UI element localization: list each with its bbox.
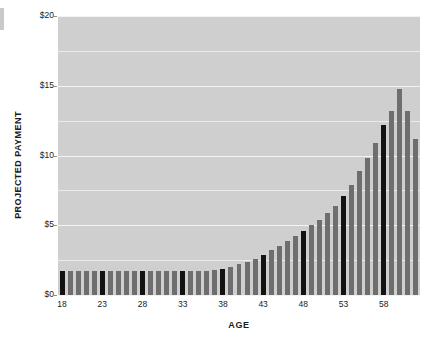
y-tick-label: $0 (14, 289, 54, 299)
page-edge-marker (0, 8, 4, 30)
x-tick-label: 38 (210, 299, 236, 309)
bar (148, 271, 153, 295)
bar (180, 271, 185, 295)
y-tick-label: $10 (14, 150, 54, 160)
plot-area (58, 16, 420, 295)
bar (405, 111, 410, 295)
x-tick-label: 28 (129, 299, 155, 309)
bar (100, 271, 105, 295)
y-tick-mark (53, 86, 57, 87)
bar (132, 271, 137, 295)
y-tick-label: $15 (14, 80, 54, 90)
chart-page: PROJECTED PAYMENT AGE $0$5$10$15$20 1823… (0, 0, 443, 344)
bar (397, 89, 402, 295)
bar (76, 271, 81, 295)
bar (389, 111, 394, 295)
y-tick-label: $20 (14, 10, 54, 20)
x-tick-label: 18 (49, 299, 75, 309)
bar (325, 213, 330, 295)
bar (293, 236, 298, 295)
x-axis-title: AGE (58, 320, 420, 330)
bar (204, 271, 209, 295)
y-tick-mark (53, 16, 57, 17)
bar (309, 225, 314, 295)
bar (188, 271, 193, 295)
bar (220, 269, 225, 296)
bar (333, 206, 338, 295)
gridline (58, 295, 420, 296)
bar (317, 220, 322, 295)
x-tick-label: 53 (331, 299, 357, 309)
bar (172, 271, 177, 295)
bar (84, 271, 89, 295)
bar (349, 185, 354, 295)
bar (357, 171, 362, 295)
bar (108, 271, 113, 295)
bar (285, 241, 290, 295)
x-tick-label: 23 (89, 299, 115, 309)
x-tick-label: 43 (250, 299, 276, 309)
bar (365, 158, 370, 295)
bar (156, 271, 161, 295)
bar (140, 271, 145, 295)
y-tick-mark (53, 225, 57, 226)
y-tick-mark (53, 156, 57, 157)
bar (261, 255, 266, 295)
bar (237, 264, 242, 295)
bar-series (58, 16, 420, 295)
bar (124, 271, 129, 295)
bar (341, 196, 346, 295)
bar (413, 139, 418, 295)
y-tick-label: $5 (14, 219, 54, 229)
bar (381, 125, 386, 295)
bar (269, 250, 274, 295)
bar (228, 267, 233, 295)
bar (212, 270, 217, 295)
bar (277, 246, 282, 295)
y-axis-title: PROJECTED PAYMENT (13, 95, 23, 235)
bar (116, 271, 121, 295)
y-tick-mark (53, 295, 57, 296)
bar (301, 231, 306, 295)
bar (245, 262, 250, 295)
bar (92, 271, 97, 295)
bar (60, 271, 65, 295)
x-tick-label: 58 (371, 299, 397, 309)
bar (164, 271, 169, 295)
bar (196, 271, 201, 295)
bar (253, 259, 258, 295)
bar (373, 143, 378, 295)
bar (68, 271, 73, 295)
x-tick-label: 48 (290, 299, 316, 309)
x-tick-label: 33 (170, 299, 196, 309)
